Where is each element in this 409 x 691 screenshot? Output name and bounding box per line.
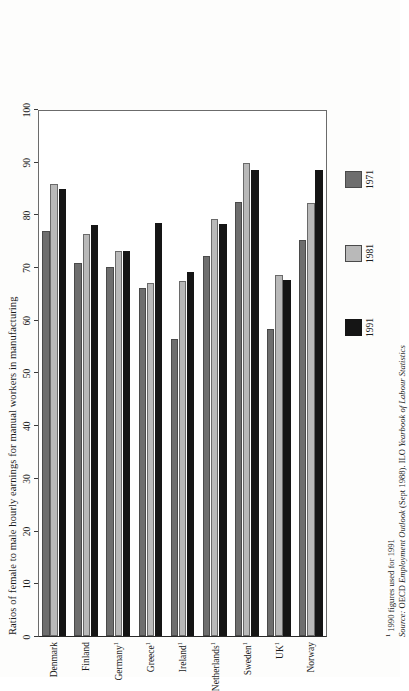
chart-legend: 199119811971 <box>345 110 379 637</box>
bar-greece-1981 <box>147 283 154 636</box>
bar-group <box>71 111 103 636</box>
legend-swatch-1971 <box>345 171 362 188</box>
bar-germany-1981 <box>115 251 122 636</box>
bar-denmark-1981 <box>50 184 57 636</box>
legend-item-1971: 1971 <box>345 170 375 189</box>
category-label-uk: UK1 <box>263 642 295 680</box>
footnote-line: 1 1990 figures used for 1991 <box>384 17 397 637</box>
source-label: Source: <box>397 611 407 637</box>
category-label-text: Denmark <box>49 642 59 677</box>
category-label-text: Greece1 <box>144 642 156 672</box>
category-label-text: Netherlands1 <box>209 642 221 691</box>
legend-item-1991: 1991 <box>345 318 375 337</box>
category-label-greece: Greece1 <box>134 642 166 680</box>
bar-netherlands-1981 <box>211 219 218 636</box>
value-axis-tick-label: 0 <box>22 635 32 640</box>
value-axis-tick-label: 50 <box>22 369 32 379</box>
value-axis-tick-label: 100 <box>22 103 32 117</box>
bar-norway-1991 <box>315 170 322 636</box>
value-axis-tick-label: 90 <box>22 158 32 168</box>
category-footnote-marker: 1 <box>273 642 280 645</box>
bar-finland-1981 <box>83 234 90 636</box>
value-axis-tick-label: 60 <box>22 316 32 326</box>
footnote-text: 1990 figures used for 1991 <box>386 539 396 634</box>
bar-group <box>103 111 135 636</box>
bar-group <box>200 111 232 636</box>
bar-group <box>232 111 264 636</box>
category-footnote-marker: 1 <box>209 642 216 645</box>
bar-greece-1971 <box>139 288 146 636</box>
legend-swatch-1981 <box>345 245 362 262</box>
category-label-text: Norway <box>306 642 316 673</box>
value-axis-tick-label: 20 <box>22 527 32 537</box>
category-label-text: Sweden1 <box>241 642 253 675</box>
category-label-norway: Norway <box>295 642 327 680</box>
category-label-text: UK1 <box>273 642 285 659</box>
bar-ireland-1991 <box>187 272 194 636</box>
bar-greece-1991 <box>155 223 162 636</box>
bar-group <box>39 111 71 636</box>
bar-netherlands-1991 <box>219 224 226 636</box>
source-text-b: (Sept 1988). ILO <box>397 447 407 510</box>
plot-area <box>38 110 327 637</box>
category-footnote-marker: 1 <box>176 642 183 645</box>
category-footnote-marker: 1 <box>241 642 248 645</box>
category-footnote-marker: 1 <box>144 642 151 645</box>
category-label-ireland: Ireland1 <box>166 642 198 680</box>
bar-norway-1971 <box>299 240 306 636</box>
legend-label-1981: 1981 <box>365 244 375 263</box>
bar-ireland-1981 <box>179 281 186 636</box>
legend-item-1981: 1981 <box>345 244 375 263</box>
category-label-netherlands: Netherlands1 <box>199 642 231 680</box>
bar-uk-1971 <box>267 329 274 636</box>
bar-sweden-1981 <box>243 163 250 636</box>
bar-uk-1991 <box>283 280 290 636</box>
source-italic-b: Yearbook of Labour Statistics <box>397 345 407 447</box>
bar-norway-1981 <box>307 203 314 636</box>
bar-netherlands-1971 <box>203 256 210 636</box>
bar-denmark-1991 <box>59 189 66 636</box>
bar-group <box>167 111 199 636</box>
figure-notes: 1 1990 figures used for 1991 Source: OEC… <box>384 17 409 637</box>
source-text-a: OECD <box>397 583 407 611</box>
legend-label-1991: 1991 <box>365 318 375 337</box>
bar-group <box>264 111 296 636</box>
bar-germany-1991 <box>123 251 130 636</box>
bar-group <box>296 111 328 636</box>
value-axis-tick-label: 70 <box>22 263 32 273</box>
bar-finland-1991 <box>91 225 98 636</box>
category-label-text: Ireland1 <box>176 642 188 672</box>
bar-germany-1971 <box>106 267 113 636</box>
bar-uk-1981 <box>275 275 282 636</box>
category-label-finland: Finland <box>70 642 102 680</box>
category-label-text: Germany1 <box>112 642 124 681</box>
value-axis-tick-label: 30 <box>22 474 32 484</box>
legend-label-1971: 1971 <box>365 170 375 189</box>
value-axis-tick-label: 10 <box>22 580 32 590</box>
value-axis-tick-label: 80 <box>22 211 32 221</box>
bar-group <box>135 111 167 636</box>
category-label-sweden: Sweden1 <box>231 642 263 680</box>
category-label-denmark: Denmark <box>38 642 70 680</box>
source-italic-a: Employment Outlook <box>397 510 407 583</box>
source-line: Source: OECD Employment Outlook (Sept 19… <box>397 17 409 637</box>
bar-denmark-1971 <box>42 231 49 636</box>
bar-ireland-1971 <box>171 339 178 636</box>
footnote-marker: 1 <box>384 634 391 637</box>
bar-finland-1971 <box>74 263 81 636</box>
category-label-text: Finland <box>81 642 91 671</box>
category-axis: DenmarkFinlandGermany1Greece1Ireland1Net… <box>38 639 327 677</box>
legend-swatch-1991 <box>345 319 362 336</box>
bar-sweden-1991 <box>251 170 258 636</box>
category-footnote-marker: 1 <box>112 642 119 645</box>
bar-sweden-1971 <box>235 202 242 636</box>
category-label-germany: Germany1 <box>102 642 134 680</box>
value-axis-tick-label: 40 <box>22 421 32 431</box>
y-axis-title: Ratios of female to male hourly earnings… <box>7 35 18 635</box>
